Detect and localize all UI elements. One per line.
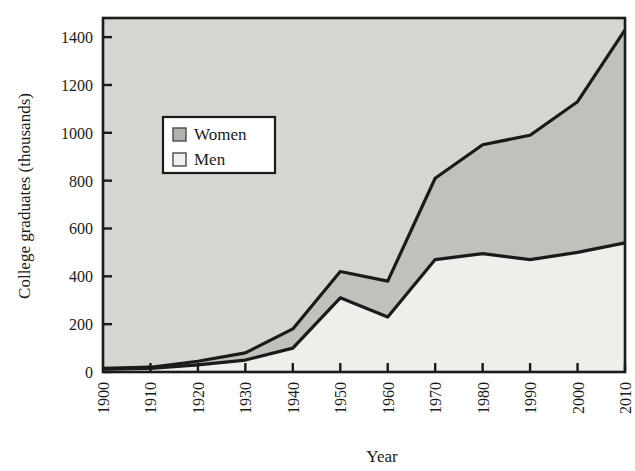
legend-swatch-men <box>173 153 186 166</box>
x-tick-label: 1960 <box>380 382 397 414</box>
x-tick-label: 1950 <box>332 382 349 414</box>
legend-label-men: Men <box>194 150 226 169</box>
y-tick-label: 800 <box>69 173 93 190</box>
y-tick-label: 0 <box>85 364 93 381</box>
x-tick-label: 1910 <box>142 382 159 414</box>
y-tick-label: 1200 <box>61 77 93 94</box>
x-tick-label: 1920 <box>190 382 207 414</box>
y-tick-label: 600 <box>69 220 93 237</box>
x-tick-label: 2000 <box>570 382 587 414</box>
legend-label-women: Women <box>194 125 247 144</box>
chart-legend: WomenMen <box>163 117 275 173</box>
chart-container: 0200400600800100012001400 19001910192019… <box>0 0 635 471</box>
x-tick-label: 1930 <box>237 382 254 414</box>
x-tick-label: 1900 <box>95 382 112 414</box>
y-tick-label: 200 <box>69 316 93 333</box>
x-axis-title: Year <box>366 447 398 466</box>
area-chart: 0200400600800100012001400 19001910192019… <box>0 0 635 471</box>
y-axis-title: College graduates (thousands) <box>15 93 34 299</box>
y-tick-label: 400 <box>69 268 93 285</box>
y-tick-label: 1400 <box>61 29 93 46</box>
x-tick-label: 1970 <box>427 382 444 414</box>
x-tick-label: 1980 <box>475 382 492 414</box>
x-tick-label: 1990 <box>522 382 539 414</box>
legend-swatch-women <box>173 128 186 141</box>
y-tick-label: 1000 <box>61 125 93 142</box>
x-tick-label: 2010 <box>617 382 634 414</box>
x-tick-label: 1940 <box>285 382 302 414</box>
